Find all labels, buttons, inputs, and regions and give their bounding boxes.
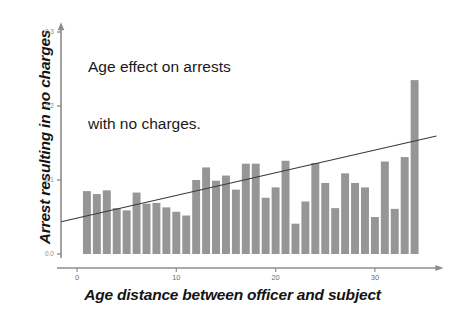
bar bbox=[133, 193, 141, 254]
bar bbox=[93, 194, 101, 254]
bar bbox=[401, 157, 409, 254]
bar bbox=[222, 176, 230, 254]
bar bbox=[361, 187, 369, 254]
bar bbox=[301, 201, 309, 254]
bar bbox=[391, 209, 399, 254]
bar bbox=[411, 80, 419, 254]
y-tick-label: 0.0 bbox=[45, 250, 54, 257]
x-axis-arrow-icon bbox=[435, 265, 443, 271]
bar bbox=[152, 203, 160, 254]
x-tick-label: 10 bbox=[172, 273, 180, 282]
y-tick-label: 0.2 bbox=[45, 102, 54, 109]
bar bbox=[282, 161, 290, 254]
bar bbox=[262, 198, 270, 254]
bar bbox=[202, 167, 210, 254]
y-axis-arrow-icon bbox=[58, 22, 65, 30]
bar bbox=[123, 210, 131, 254]
bar-series bbox=[83, 80, 419, 254]
bar bbox=[242, 164, 250, 254]
bar bbox=[311, 163, 319, 254]
y-axis: 0.00.10.20.3 bbox=[45, 22, 64, 258]
bar bbox=[291, 224, 299, 254]
bar bbox=[182, 216, 190, 254]
y-tick-label: 0.1 bbox=[45, 176, 54, 183]
bar bbox=[341, 173, 349, 254]
bar bbox=[162, 207, 170, 254]
bar bbox=[371, 217, 379, 254]
x-axis: 0102030 bbox=[57, 265, 443, 282]
x-axis-label: Age distance between officer and subject bbox=[0, 286, 465, 304]
y-tick-label: 0.3 bbox=[45, 28, 54, 35]
bar bbox=[272, 187, 280, 254]
x-tick-label: 30 bbox=[371, 273, 379, 282]
chart-figure: Arrest resulting in no charges Age effec… bbox=[0, 0, 465, 316]
bar bbox=[321, 183, 329, 254]
bar bbox=[232, 190, 240, 254]
bar bbox=[103, 190, 111, 254]
bar bbox=[212, 181, 220, 254]
x-tick-label: 20 bbox=[271, 273, 279, 282]
bar bbox=[381, 162, 389, 255]
bar bbox=[331, 208, 339, 254]
bar bbox=[113, 208, 121, 254]
bar bbox=[351, 183, 359, 254]
plot-area: 0.00.10.20.3 0102030 bbox=[0, 0, 465, 316]
bar bbox=[143, 204, 151, 254]
x-tick-label: 0 bbox=[75, 273, 79, 282]
bar bbox=[83, 191, 91, 254]
bar bbox=[172, 212, 180, 254]
